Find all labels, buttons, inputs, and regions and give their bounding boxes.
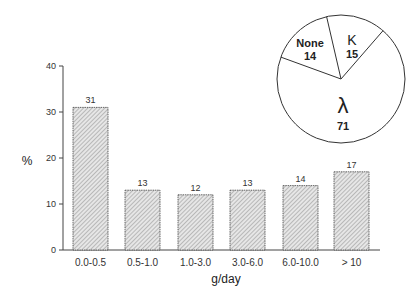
bar: 17> 10: [334, 160, 369, 268]
pie-label: None: [296, 37, 324, 49]
y-axis: 010203040: [46, 61, 63, 255]
bar: 310.0-0.5: [73, 95, 108, 268]
bar-value-label: 13: [242, 178, 252, 188]
y-tick: 0: [51, 245, 63, 255]
y-tick-label: 0: [51, 245, 56, 255]
bar-value-label: 12: [190, 183, 200, 193]
y-tick: 10: [46, 199, 63, 209]
bar: 130.5-1.0: [125, 178, 160, 268]
y-tick: 40: [46, 61, 63, 71]
y-tick-label: 40: [46, 61, 56, 71]
bar-value-label: 17: [346, 160, 356, 170]
pie-slice-label: K15: [346, 32, 358, 60]
y-tick: 20: [46, 153, 63, 163]
bar: 121.0-3.0: [178, 183, 213, 268]
y-axis-label: %: [22, 154, 33, 168]
x-tick-label: 1.0-3.0: [180, 257, 212, 268]
bar: 146.0-10.0: [282, 174, 319, 268]
x-axis-label: g/day: [211, 272, 240, 286]
pie-value: 15: [346, 48, 358, 60]
bar: 133.0-6.0: [230, 178, 265, 268]
pie-value: 14: [304, 50, 317, 62]
pie-label: K: [347, 32, 357, 48]
x-tick-label: 3.0-6.0: [232, 257, 264, 268]
x-tick-label: > 10: [342, 257, 362, 268]
y-tick: 30: [46, 107, 63, 117]
pie-slice-label: λ71: [337, 93, 349, 132]
pie-label: λ: [338, 93, 349, 118]
y-tick-label: 20: [46, 153, 56, 163]
bar-value-label: 31: [85, 95, 95, 105]
x-tick-label: 0.5-1.0: [127, 257, 159, 268]
bar-value-label: 14: [295, 174, 305, 184]
y-tick-label: 30: [46, 107, 56, 117]
bar-value-label: 13: [137, 178, 147, 188]
x-tick-label: 6.0-10.0: [282, 257, 319, 268]
x-tick-label: 0.0-0.5: [75, 257, 107, 268]
y-tick-label: 10: [46, 199, 56, 209]
pie-value: 71: [337, 120, 349, 132]
chart-canvas: 010203040 % g/day 310.0-0.5130.5-1.0121.…: [0, 0, 409, 304]
pie-chart: λ71None14K15: [277, 15, 405, 143]
